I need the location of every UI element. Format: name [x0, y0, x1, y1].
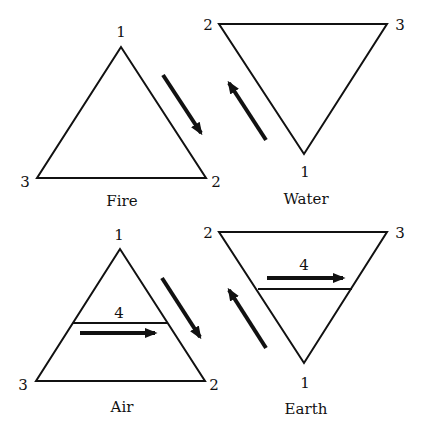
water-vertex-2: 2	[203, 16, 213, 34]
earth-arrow-up-left-icon	[229, 290, 266, 348]
water-panel: 2 3 1 Water	[203, 16, 405, 208]
water-label: Water	[283, 190, 329, 208]
alchemical-elements-diagram: 1 3 2 Fire 2 3 1 Water 1 3 2 4 Air 2 3 1…	[0, 0, 423, 435]
air-vertex-3: 3	[18, 376, 28, 394]
fire-vertex-2: 2	[211, 173, 221, 191]
earth-vertex-2: 2	[203, 224, 213, 242]
fire-vertex-3: 3	[20, 173, 30, 191]
air-vertex-1: 1	[114, 226, 124, 244]
fire-panel: 1 3 2 Fire	[20, 23, 221, 210]
earth-vertex-1: 1	[300, 374, 310, 392]
air-panel: 1 3 2 4 Air	[18, 226, 219, 416]
earth-divider-label-4: 4	[299, 256, 309, 274]
water-vertex-3: 3	[395, 16, 405, 34]
water-vertex-1: 1	[300, 163, 310, 181]
air-vertex-2: 2	[209, 376, 219, 394]
water-arrow-up-left-icon	[229, 83, 266, 140]
air-divider-label-4: 4	[114, 304, 124, 322]
fire-arrow-down-right-icon	[163, 75, 201, 133]
earth-panel: 2 3 1 4 Earth	[203, 224, 405, 418]
air-label: Air	[110, 398, 135, 416]
earth-vertex-3: 3	[395, 224, 405, 242]
earth-triangle	[219, 232, 387, 363]
air-arrow-down-right-icon	[162, 278, 200, 337]
fire-triangle	[37, 47, 206, 178]
fire-vertex-1: 1	[116, 23, 126, 41]
earth-label: Earth	[285, 400, 328, 418]
fire-label: Fire	[106, 192, 137, 210]
water-triangle	[219, 24, 387, 154]
